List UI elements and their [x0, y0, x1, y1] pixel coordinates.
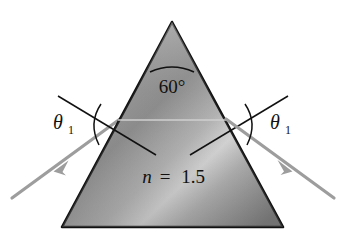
theta-left-symbol: θ [53, 111, 63, 133]
theta-right-subscript: 1 [285, 123, 291, 137]
theta-right-symbol: θ [270, 111, 280, 133]
index-value: 1.5 [181, 166, 205, 187]
theta-left-subscript: 1 [68, 123, 74, 137]
svg-text:n: n [142, 166, 152, 187]
prism-refraction-figure: 60° n = 1.5 θ 1 θ 1 [0, 0, 346, 239]
index-symbol: n [142, 166, 152, 187]
index-equals: = [160, 166, 171, 187]
diagram-canvas: 60° n = 1.5 θ 1 θ 1 [0, 0, 346, 239]
apex-angle-label: 60° [159, 76, 186, 97]
